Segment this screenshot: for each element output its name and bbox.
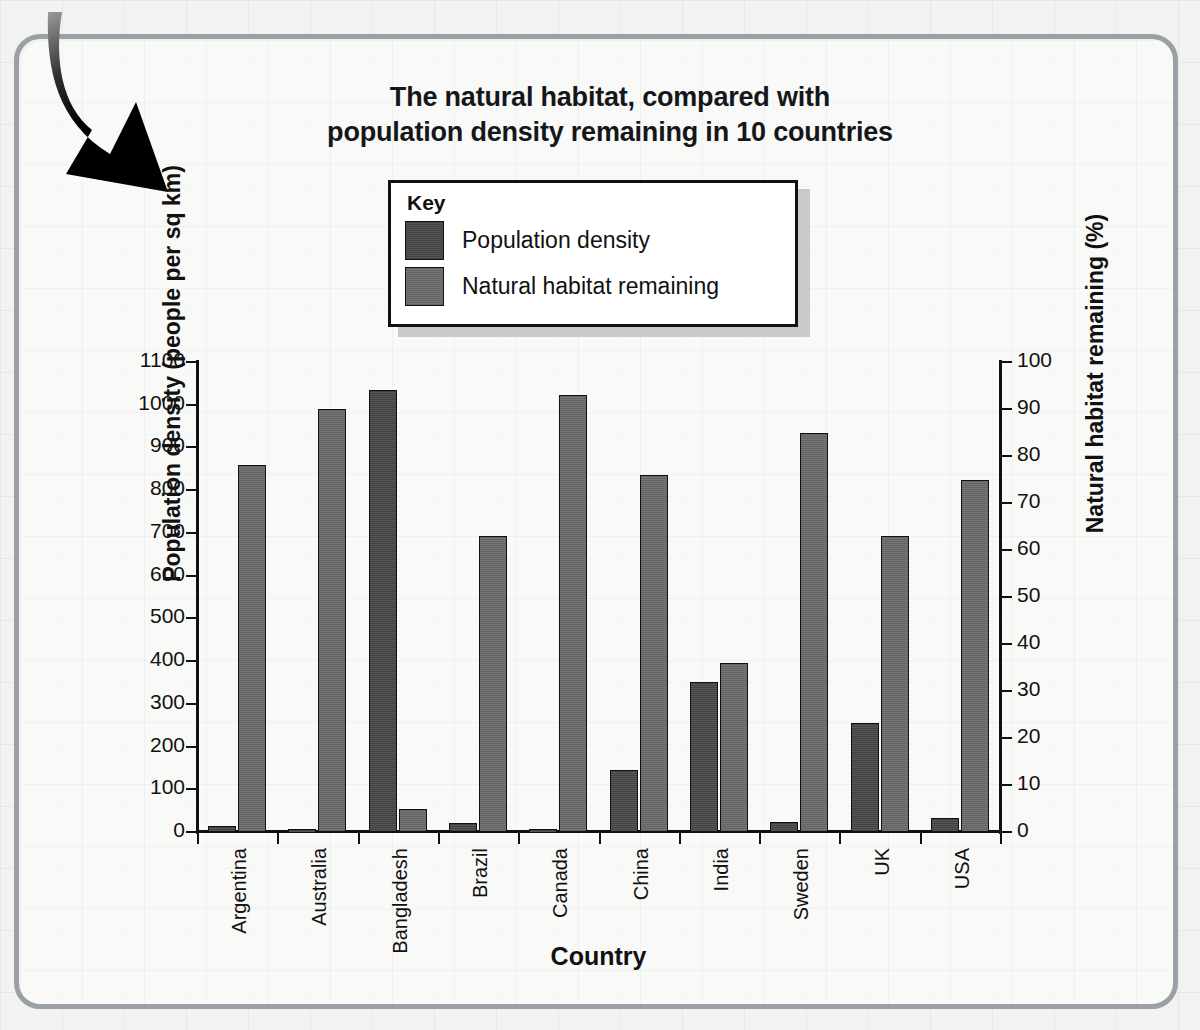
x-axis-tick (197, 832, 199, 844)
x-axis-tick (518, 832, 520, 844)
x-axis-category-label: USA (951, 848, 974, 889)
x-axis-tick (839, 832, 841, 844)
y-axis-right-tick (1001, 455, 1012, 457)
y-axis-right-tick-label: 60 (1017, 536, 1040, 560)
x-axis-category-label: Sweden (790, 848, 813, 920)
y-axis-right-title: Natural habitat remaining (%) (1082, 134, 1109, 614)
bar-natural-habitat (800, 433, 828, 833)
y-axis-right-tick-label: 80 (1017, 442, 1040, 466)
x-axis-category-label: UK (871, 848, 894, 876)
bar-population-density (369, 390, 397, 832)
y-axis-right-tick (1001, 831, 1012, 833)
x-axis-title: Country (197, 942, 1000, 971)
y-axis-right-tick (1001, 784, 1012, 786)
y-axis-right-tick-label: 40 (1017, 630, 1040, 654)
bar-natural-habitat (961, 480, 989, 833)
bar-population-density (288, 829, 316, 833)
bar-population-density (610, 770, 638, 832)
y-axis-left-tick-label: 300 (150, 690, 185, 714)
y-axis-right-tick-label: 10 (1017, 771, 1040, 795)
curved-down-arrow-icon (18, 2, 218, 217)
bar-natural-habitat (640, 475, 668, 832)
y-axis-right-tick (1001, 549, 1012, 551)
bar-population-density (529, 829, 557, 833)
x-axis-tick (679, 832, 681, 844)
y-axis-left-tick (186, 703, 197, 705)
y-axis-right-tick-label: 90 (1017, 395, 1040, 419)
y-axis-left-tick (186, 446, 197, 448)
bar-natural-habitat (318, 409, 346, 832)
y-axis-right-tick (1001, 690, 1012, 692)
x-axis-tick (599, 832, 601, 844)
y-axis-left-tick-label: 200 (150, 733, 185, 757)
y-axis-left-tick-label: 400 (150, 647, 185, 671)
x-axis-category-label: Canada (549, 848, 572, 918)
y-axis-right-tick-label: 50 (1017, 583, 1040, 607)
y-axis-right-tick (1001, 643, 1012, 645)
bar-natural-habitat (399, 809, 427, 833)
bar-population-density (449, 823, 477, 832)
y-axis-left-tick (186, 746, 197, 748)
y-axis-right-tick (1001, 361, 1012, 363)
y-axis-left-tick (186, 489, 197, 491)
x-axis-tick (920, 832, 922, 844)
bar-natural-habitat (720, 663, 748, 832)
y-axis-left-tick (186, 617, 197, 619)
y-axis-left-tick (186, 361, 197, 363)
y-axis-right-tick-label: 30 (1017, 677, 1040, 701)
y-axis-left-tick (186, 831, 197, 833)
x-axis-category-label: Brazil (469, 848, 492, 898)
y-axis-right-tick (1001, 502, 1012, 504)
y-axis-right-tick (1001, 596, 1012, 598)
x-axis-tick (277, 832, 279, 844)
bar-population-density (851, 723, 879, 832)
bar-natural-habitat (479, 536, 507, 832)
bar-natural-habitat (238, 465, 266, 832)
bar-natural-habitat (881, 536, 909, 832)
y-axis-left-tick-label: 0 (173, 818, 185, 842)
y-axis-right-tick (1001, 737, 1012, 739)
y-axis-left-tick (186, 404, 197, 406)
y-axis-left-tick (186, 575, 197, 577)
x-axis-category-label: China (630, 848, 653, 900)
y-axis-right-tick-label: 70 (1017, 489, 1040, 513)
x-axis-category-label: India (710, 848, 733, 891)
bar-population-density (690, 682, 718, 832)
x-axis-tick (438, 832, 440, 844)
x-axis-category-label: Bangladesh (389, 848, 412, 954)
page-background: The natural habitat, compared with popul… (0, 0, 1200, 1030)
bar-population-density (770, 822, 798, 832)
y-axis-right-tick-label: 20 (1017, 724, 1040, 748)
y-axis-right-tick-label: 100 (1017, 348, 1052, 372)
y-axis-left-tick (186, 788, 197, 790)
bar-population-density (931, 818, 959, 832)
x-axis-category-label: Argentina (228, 848, 251, 934)
x-axis-tick (1000, 832, 1002, 844)
bar-population-density (208, 826, 236, 832)
y-axis-left-tick (186, 660, 197, 662)
y-axis-right-tick (1001, 408, 1012, 410)
x-axis-tick (358, 832, 360, 844)
x-axis-category-label: Australia (308, 848, 331, 926)
y-axis-right-tick-label: 0 (1017, 818, 1029, 842)
y-axis-left-line (196, 360, 199, 834)
bar-natural-habitat (559, 395, 587, 832)
y-axis-left-tick-label: 100 (150, 775, 185, 799)
y-axis-left-tick (186, 532, 197, 534)
x-axis-tick (759, 832, 761, 844)
